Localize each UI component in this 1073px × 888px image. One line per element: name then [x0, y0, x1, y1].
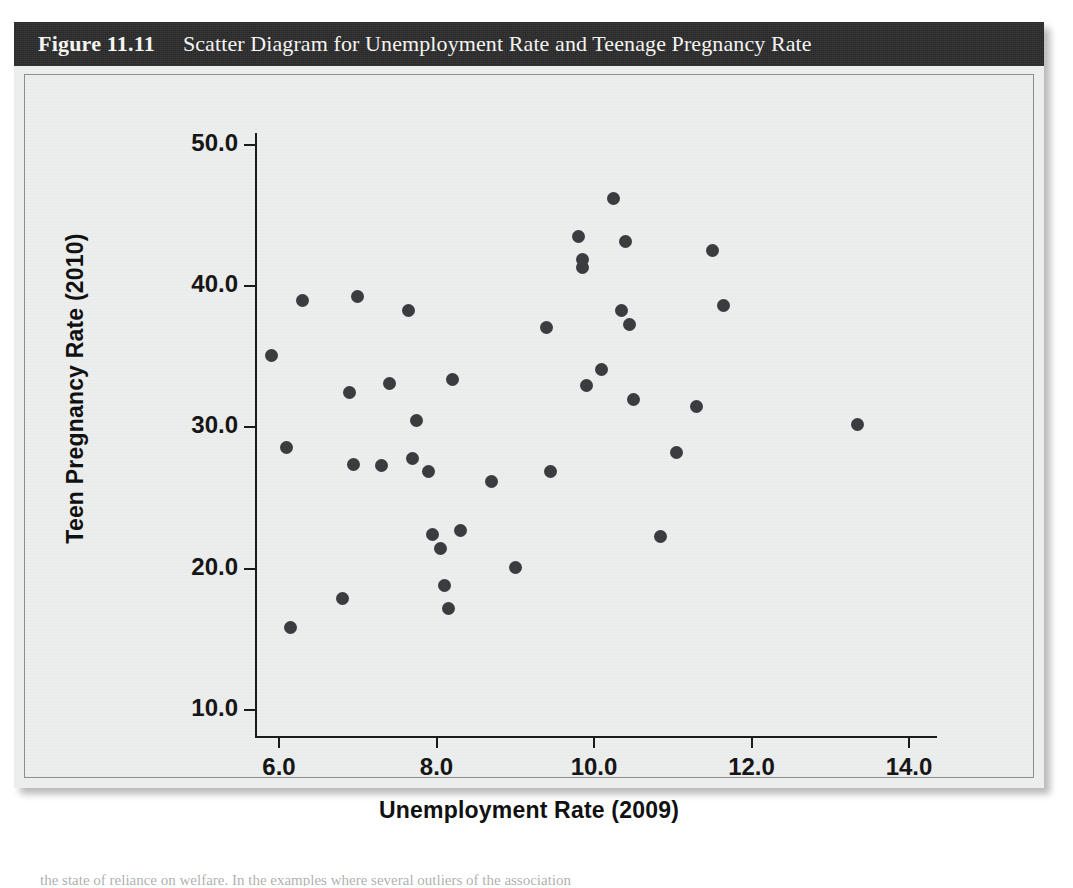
scatter-point	[576, 253, 589, 266]
y-axis-tick	[244, 568, 255, 570]
scatter-point	[446, 373, 459, 386]
scatter-point	[595, 363, 608, 376]
scatter-point	[454, 524, 467, 537]
figure-number: Figure 11.11	[38, 31, 155, 57]
scatter-point	[442, 602, 455, 615]
scatter-point	[426, 528, 439, 541]
x-axis-tick-label: 12.0	[707, 753, 797, 781]
scatter-point	[485, 475, 498, 488]
scatter-point	[406, 452, 419, 465]
y-axis-tick-label: 10.0	[148, 694, 238, 722]
scatter-point	[284, 621, 297, 634]
scatter-point	[434, 542, 447, 555]
figure-container: Figure 11.11 Scatter Diagram for Unemplo…	[14, 22, 1044, 788]
y-axis-tick	[244, 285, 255, 287]
scatter-point	[438, 579, 451, 592]
scatter-point	[265, 349, 278, 362]
scatter-point	[544, 465, 557, 478]
figure-caption-bar: Figure 11.11 Scatter Diagram for Unemplo…	[14, 22, 1044, 66]
scatter-point	[336, 592, 349, 605]
figure-title: Scatter Diagram for Unemployment Rate an…	[183, 31, 812, 57]
y-axis-tick-label: 20.0	[148, 553, 238, 581]
scatter-point	[343, 386, 356, 399]
scatter-point	[654, 530, 667, 543]
x-axis-tick	[908, 736, 910, 748]
scatter-point	[347, 458, 360, 471]
scatter-point	[607, 192, 620, 205]
scatter-point	[572, 230, 585, 243]
scatter-point	[576, 261, 589, 274]
x-axis-title: Unemployment Rate (2009)	[25, 797, 1033, 824]
scatter-point	[690, 400, 703, 413]
y-axis-tick	[244, 144, 255, 146]
x-axis-tick	[278, 736, 280, 748]
scatter-point	[509, 561, 522, 574]
scatter-point	[619, 235, 632, 248]
x-axis-tick-label: 14.0	[864, 753, 954, 781]
x-axis-tick-label: 10.0	[549, 753, 639, 781]
scatter-point	[627, 393, 640, 406]
plot-panel: 10.020.030.040.050.06.08.010.012.014.0 T…	[24, 74, 1034, 778]
scatter-point	[717, 299, 730, 312]
scatter-point	[851, 418, 864, 431]
x-axis-tick	[751, 736, 753, 748]
y-axis-tick-label: 30.0	[148, 411, 238, 439]
y-axis-tick-label: 50.0	[148, 129, 238, 157]
x-axis-tick-label: 6.0	[234, 753, 324, 781]
scatter-point	[375, 459, 388, 472]
scatter-point	[280, 441, 293, 454]
y-axis-line	[255, 133, 257, 737]
scatter-point	[540, 321, 553, 334]
scatter-point	[351, 290, 364, 303]
y-axis-tick	[244, 426, 255, 428]
x-axis-line	[255, 736, 937, 738]
scatter-point	[422, 465, 435, 478]
y-axis-tick	[244, 709, 255, 711]
x-axis-tick-label: 8.0	[392, 753, 482, 781]
scatter-point	[615, 304, 628, 317]
y-axis-title: Teen Pregnancy Rate (2010)	[62, 179, 89, 599]
scatter-point	[706, 244, 719, 257]
scatter-point	[383, 377, 396, 390]
scatter-point	[410, 414, 423, 427]
scatter-point	[402, 304, 415, 317]
x-axis-tick	[436, 736, 438, 748]
scatter-point	[580, 379, 593, 392]
x-axis-tick	[593, 736, 595, 748]
y-axis-tick-label: 40.0	[148, 270, 238, 298]
scatter-point	[623, 318, 636, 331]
scatter-point	[296, 294, 309, 307]
page-bleed-text: the state of reliance on welfare. In the…	[40, 872, 1040, 886]
scatter-point	[670, 446, 683, 459]
